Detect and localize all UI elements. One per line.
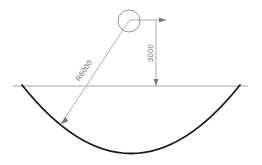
drawing-canvas: R6000 3000: [0, 0, 262, 165]
radius-dimension-label: R6000: [74, 58, 95, 83]
engineering-drawing: R6000 3000: [0, 0, 262, 165]
radius-leader-arrowhead-icon: [61, 117, 68, 125]
depth-dimension-label: 3000: [146, 44, 155, 62]
extension-line-arrowhead-icon: [159, 18, 166, 23]
radius-leader-line: [61, 21, 129, 124]
channel-arc: [22, 85, 240, 154]
depth-dimension-arrowhead-icon: [154, 79, 159, 86]
